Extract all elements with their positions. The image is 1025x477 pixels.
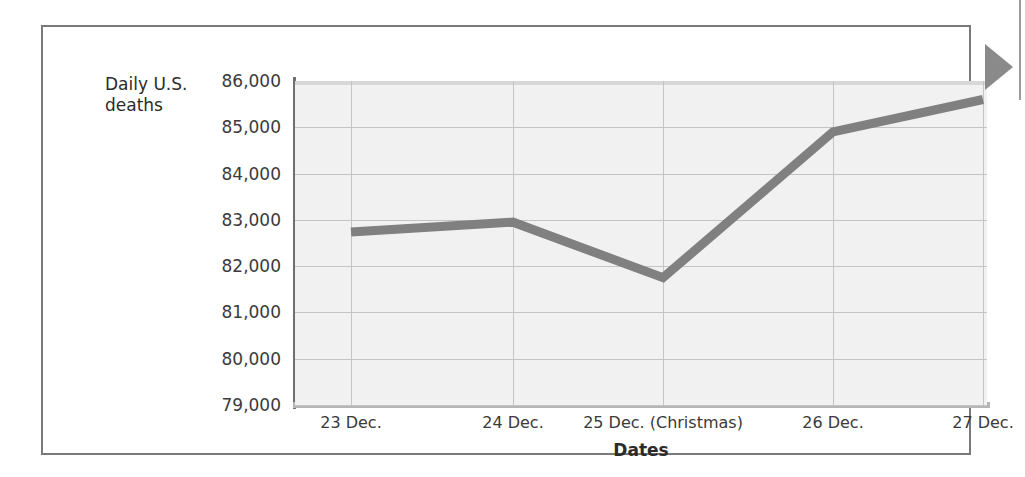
y-axis-tick-label: 79,000 [222,395,281,415]
y-axis-tick-labels: 79,00080,00081,00082,00083,00084,00085,0… [203,81,291,405]
gridline-horizontal [295,405,987,406]
x-axis-tick-label: 23 Dec. [320,413,382,432]
x-axis-tick-labels: 23 Dec.24 Dec.25 Dec. (Christmas)26 Dec.… [295,413,987,437]
data-polyline [351,100,983,278]
chart-frame: Daily U.S. deaths 79,00080,00081,00082,0… [41,25,971,455]
data-line-series [295,81,987,405]
y-axis-tick-label: 81,000 [222,302,281,322]
y-axis-tick-label: 85,000 [222,117,281,137]
x-axis-tick-label: 27 Dec. [952,413,1014,432]
right-triangle-marker-icon [985,44,1013,90]
y-axis-caption-line-2: deaths [105,95,210,116]
y-axis-caption-line-1: Daily U.S. [105,74,210,95]
y-axis-tick-label: 83,000 [222,210,281,230]
x-axis-tick-label: 24 Dec. [482,413,544,432]
y-axis-tick-label: 82,000 [222,256,281,276]
x-axis-tick-label: 25 Dec. (Christmas) [583,413,743,432]
y-axis-tick-label: 86,000 [222,71,281,91]
y-axis-tick-label: 80,000 [222,349,281,369]
x-axis-title: Dates [295,440,987,460]
page-edge-rule [1019,0,1021,100]
x-axis-tick-label: 26 Dec. [802,413,864,432]
plot-area [295,81,987,405]
y-axis-caption: Daily U.S. deaths [105,74,210,116]
y-axis-tick-label: 84,000 [222,164,281,184]
